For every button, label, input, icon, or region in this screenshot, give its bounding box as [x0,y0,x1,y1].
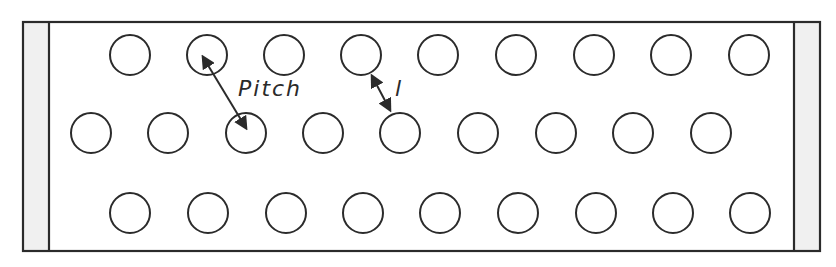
end-strip-left [23,22,49,251]
hole-circle-row-2 [226,113,266,153]
hole-circle-row-1 [264,35,304,75]
hole-circle-row-2 [148,113,188,153]
ligament-arrow [372,76,390,110]
hole-circle-row-3 [343,193,383,233]
hole-circle-row-1 [187,35,227,75]
hole-circle-row-2 [303,113,343,153]
plate [23,22,820,251]
hole-circle-row-2 [71,113,111,153]
holes [71,35,770,233]
hole-circle-row-1 [729,35,769,75]
hole-circle-row-3 [110,193,150,233]
hole-circle-row-2 [380,113,420,153]
hole-circle-row-3 [188,193,228,233]
hole-circle-row-3 [576,193,616,233]
hole-circle-row-3 [266,193,306,233]
tube-bank-diagram: Pitch l [0,0,836,267]
hole-circle-row-2 [613,113,653,153]
hole-circle-row-1 [651,35,691,75]
hole-circle-row-3 [730,193,770,233]
hole-circle-row-1 [110,35,150,75]
hole-circle-row-1 [574,35,614,75]
hole-circle-row-2 [536,113,576,153]
pitch-label: Pitch [238,76,302,101]
hole-circle-row-2 [691,113,731,153]
end-strip-right [794,22,820,251]
hole-circle-row-1 [496,35,536,75]
hole-circle-row-2 [458,113,498,153]
ligament-label: l [395,76,401,101]
plate-outline [23,22,820,251]
hole-circle-row-1 [341,35,381,75]
hole-circle-row-3 [498,193,538,233]
hole-circle-row-1 [418,35,458,75]
hole-circle-row-3 [420,193,460,233]
hole-circle-row-3 [653,193,693,233]
